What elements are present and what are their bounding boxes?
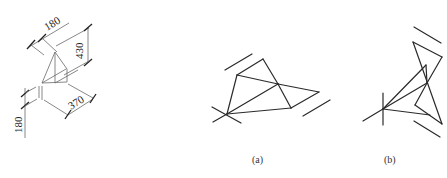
dimensioned-drawing: 180 430 370 180 [12, 14, 96, 138]
member-edge [213, 114, 227, 122]
caption-a: (a) [252, 154, 263, 166]
dim-label-180-left: 180 [12, 116, 24, 133]
parallel-guide-line [303, 100, 330, 116]
member-edge [237, 75, 278, 84]
member-edge [363, 109, 383, 121]
dim-label-180-top: 180 [42, 14, 63, 33]
panel-b-diagram [363, 27, 442, 137]
parallel-guide-line [414, 121, 440, 137]
member-edge [427, 57, 442, 83]
member-edge [263, 59, 278, 84]
member-edge [291, 92, 319, 108]
member-edge [227, 75, 237, 114]
dim-label-370: 370 [66, 93, 87, 112]
member-edge [237, 59, 263, 75]
member-edge [278, 84, 319, 92]
member-edge [278, 84, 291, 108]
structural-diagram: 180 430 370 180 (a) (b) [0, 0, 447, 178]
dim-label-430: 430 [73, 42, 85, 59]
panel-a-diagram [212, 54, 330, 123]
parallel-guide-line [414, 27, 441, 43]
caption-b: (b) [384, 154, 396, 166]
